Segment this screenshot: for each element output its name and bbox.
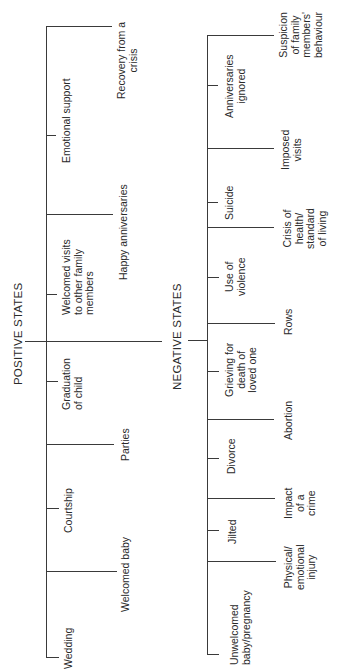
negative-root-connector xyxy=(188,340,207,341)
label-happy-anniversaries: Happy anniversaries xyxy=(118,184,130,280)
label-impact-of-crime: Impact of a crime xyxy=(283,487,318,519)
branch-grieving xyxy=(208,371,219,372)
branch-suspicion-of-family xyxy=(207,35,274,36)
branch-wedding xyxy=(47,657,59,658)
positive-spine xyxy=(46,26,47,658)
label-suspicion-of-family: Suspicion of family members' behaviour xyxy=(278,12,324,58)
label-emotional-support: Emotional support xyxy=(61,78,73,163)
label-crisis-of-health: Crisis of health/ standard of living xyxy=(282,208,328,249)
positive-root-connector xyxy=(25,341,162,342)
label-jilted: Jilted xyxy=(227,519,239,544)
label-imposed-visits: Imposed visits xyxy=(280,130,303,170)
branch-jilted xyxy=(208,530,219,531)
label-suicide: Suicide xyxy=(224,186,236,220)
label-wedding: Wedding xyxy=(63,628,75,669)
branch-emotional-support xyxy=(46,135,56,136)
branch-abortion xyxy=(208,419,274,420)
label-anniversaries-ignored: Anniversaries ignored xyxy=(224,54,247,118)
branch-impact-of-crime xyxy=(208,498,275,499)
branch-imposed-visits xyxy=(207,148,274,149)
branch-unwelcomed-baby xyxy=(208,654,219,655)
branch-crisis-of-health xyxy=(208,227,274,228)
label-graduation-of-child: Graduation of child xyxy=(61,358,84,410)
branch-anniversaries-ignored xyxy=(207,85,218,86)
label-recovery-from-crisis: Recovery from a crisis xyxy=(116,22,139,99)
label-use-of-violence: Use of violence xyxy=(224,257,247,296)
label-rows: Rows xyxy=(283,309,295,335)
branch-happy-anniversaries xyxy=(46,214,113,215)
label-grieving-for-death: Grieving for death of loved one xyxy=(224,343,259,397)
negative-spine xyxy=(207,35,208,655)
branch-welcomed-visits xyxy=(47,294,57,295)
branch-recovery-from-crisis xyxy=(46,26,112,27)
label-parties: Parties xyxy=(120,428,132,461)
label-divorce: Divorce xyxy=(226,438,238,474)
label-welcomed-baby: Welcomed baby xyxy=(120,537,132,612)
branch-divorce xyxy=(208,458,219,459)
negative-states-title: NEGATIVE STATES xyxy=(172,283,184,390)
branch-welcomed-baby xyxy=(47,571,117,572)
label-welcomed-visits: Welcomed visits to other family members xyxy=(61,239,96,315)
branch-graduation-of-child xyxy=(47,381,58,382)
positive-states-title: POSITIVE STATES xyxy=(13,283,25,385)
label-abortion: Abortion xyxy=(283,401,295,440)
branch-physical-emotional-injury xyxy=(208,561,276,562)
branch-use-of-violence xyxy=(208,277,219,278)
branch-rows xyxy=(208,323,275,324)
branch-courtship xyxy=(47,508,59,509)
label-physical-emotional-injury: Physical/ emotional injury xyxy=(283,544,318,590)
branch-suicide xyxy=(207,202,218,203)
label-unwelcomed-baby-pregnancy: Unwelcomed baby/pregnancy xyxy=(229,590,252,665)
label-courtship: Courtship xyxy=(63,488,75,533)
branch-parties xyxy=(47,444,114,445)
